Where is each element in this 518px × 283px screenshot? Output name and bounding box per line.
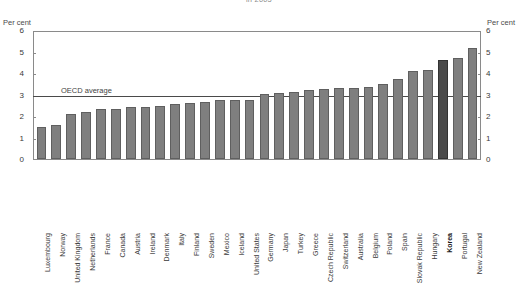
x-tick-label: New Zealand [476, 233, 483, 274]
x-tick-label: Finland [193, 233, 200, 256]
x-tick-label: Canada [119, 233, 126, 258]
bar [185, 103, 195, 159]
bar [423, 70, 433, 159]
bar [215, 100, 225, 159]
x-tick-label: Sweden [208, 233, 215, 258]
y-axis-unit-left: Per cent [3, 18, 31, 27]
bar-slot [423, 32, 433, 159]
x-tick-label: United States [253, 233, 260, 275]
bar-slot [260, 32, 270, 159]
bar [364, 87, 374, 159]
y-tick-label-right-4: 4 [486, 70, 498, 78]
bar [141, 107, 151, 159]
bar-slot [215, 32, 225, 159]
y-tick-label-left-4: 4 [12, 70, 24, 78]
bar-slot [230, 32, 240, 159]
bar [468, 48, 478, 159]
bar-slot [51, 32, 61, 159]
x-tick-label: Belgium [372, 233, 379, 258]
y-tick-label-left-2: 2 [12, 113, 24, 121]
bar [260, 94, 270, 159]
bar-slot [155, 32, 165, 159]
x-tick-label: France [104, 233, 111, 255]
y-tick-label-left-6: 6 [12, 27, 24, 35]
bar-slot [438, 32, 448, 159]
bar [334, 88, 344, 159]
bar [245, 100, 255, 159]
x-tick-label: Turkey [297, 233, 304, 254]
x-tick-label: Greece [312, 233, 319, 256]
x-tick-label: Italy [178, 233, 185, 246]
bar-slot [304, 32, 314, 159]
bar [304, 90, 314, 159]
bar-slot [200, 32, 210, 159]
bar-slot [378, 32, 388, 159]
y-tick-label-left-5: 5 [12, 49, 24, 57]
x-tick-label: Poland [386, 233, 393, 255]
bar-slot [37, 32, 47, 159]
x-tick-label: Norway [59, 233, 66, 257]
bar-slot [364, 32, 374, 159]
bar [438, 60, 448, 159]
y-axis-unit-right: Per cent [487, 18, 515, 27]
bar [289, 92, 299, 159]
bar-slot [96, 32, 106, 159]
x-tick-label: Czech Republic [327, 233, 334, 282]
bar [111, 109, 121, 159]
y-tick-label-right-5: 5 [486, 49, 498, 57]
bar [349, 88, 359, 159]
bar [453, 58, 463, 159]
y-tick-label-left-1: 1 [12, 135, 24, 143]
bar [96, 109, 106, 159]
bar-slot [408, 32, 418, 159]
bar [393, 79, 403, 159]
bar [37, 127, 47, 159]
x-tick-label: Denmark [163, 233, 170, 261]
bar [274, 93, 284, 159]
x-tick-label: Slovak Republic [416, 233, 423, 283]
x-tick-label: Luxembourg [44, 233, 51, 272]
bar-slot [170, 32, 180, 159]
x-tick-label: Iceland [238, 233, 245, 256]
bar-slot [334, 32, 344, 159]
x-axis-labels: LuxembourgNorwayUnited KingdomNetherland… [34, 163, 480, 235]
y-tick-label-right-3: 3 [486, 92, 498, 100]
bar [66, 114, 76, 160]
bar-slot [349, 32, 359, 159]
bar-slot [245, 32, 255, 159]
x-tick-label: Portugal [461, 233, 468, 259]
bar-slot [319, 32, 329, 159]
bar [81, 112, 91, 159]
bar-slot [453, 32, 463, 159]
bar [170, 104, 180, 159]
x-tick-label: Hungary [431, 233, 438, 259]
bar-slot [111, 32, 121, 159]
bar-slot [81, 32, 91, 159]
x-tick-label: Netherlands [89, 233, 96, 271]
y-tick-label-right-6: 6 [486, 27, 498, 35]
bar [155, 106, 165, 159]
chart-title: in 2005 [0, 0, 518, 4]
bar [126, 107, 136, 159]
bar-slot [274, 32, 284, 159]
x-tick-label: Japan [282, 233, 289, 252]
y-tick-label-right-2: 2 [486, 113, 498, 121]
bar-series [34, 32, 480, 159]
bar-slot [393, 32, 403, 159]
bar-slot [126, 32, 136, 159]
x-tick-label: United Kingdom [74, 233, 81, 283]
x-tick-label: Germany [267, 233, 274, 262]
x-tick-label: Spain [401, 233, 408, 251]
x-tick-label: Switzerland [342, 233, 349, 269]
bar-slot [66, 32, 76, 159]
bar-slot [185, 32, 195, 159]
bar [319, 89, 329, 159]
y-tick-label-right-0: 0 [486, 156, 498, 164]
x-tick-label: Australia [357, 233, 364, 260]
bar [51, 125, 61, 159]
bar [200, 102, 210, 159]
bar [230, 100, 240, 159]
bar [378, 84, 388, 159]
x-tick-label: Korea [446, 233, 453, 253]
